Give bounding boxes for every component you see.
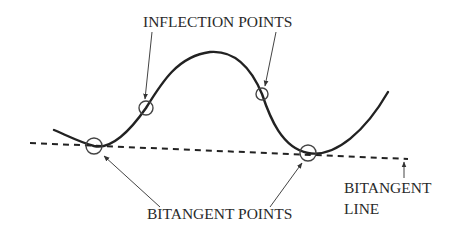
curve [54, 52, 388, 154]
bitangent-point-markers [86, 138, 316, 161]
inflection-point-markers [139, 88, 268, 115]
bitangent-line-label-line2: LINE [344, 200, 379, 217]
inflection-points-label: INFLECTION POINTS [143, 13, 292, 30]
inflection-arrow-right-icon [265, 32, 276, 86]
bitangent-points-label: BITANGENT POINTS [147, 205, 292, 222]
bitangent-arrow-right-icon [270, 163, 302, 207]
bitangent-arrow-left-icon [104, 156, 160, 207]
inflection-arrow-left-icon [145, 32, 152, 99]
bitangent-diagram: INFLECTION POINTS BITANGENT POINTS BITAN… [0, 0, 450, 227]
bitangent-line-label-line1: BITANGENT [344, 179, 432, 196]
